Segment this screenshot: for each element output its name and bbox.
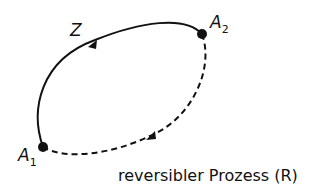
path-z [38, 23, 202, 147]
point-a1 [38, 142, 48, 152]
caption: reversibler Prozess (R) [118, 166, 298, 185]
label-z: Z [70, 20, 82, 40]
path-r [43, 34, 205, 154]
label-a2: A2 [210, 12, 229, 32]
point-a2 [197, 29, 207, 39]
label-a1: A1 [18, 145, 37, 165]
cycle-diagram [0, 0, 320, 188]
arrow-r-icon [146, 131, 156, 140]
